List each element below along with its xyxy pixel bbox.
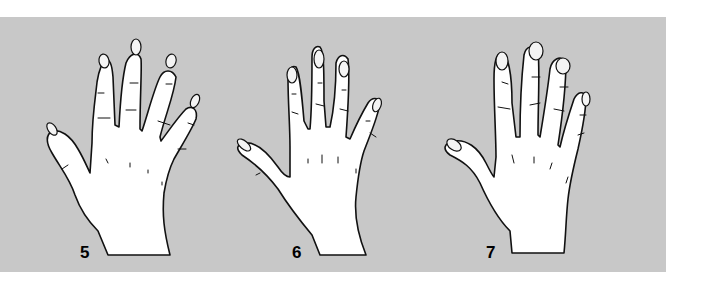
hand-7-illustration <box>440 17 666 272</box>
hand-figure-5: 5 <box>0 17 220 272</box>
hand-figure-7: 7 <box>440 17 666 272</box>
hand-figure-6: 6 <box>220 17 440 272</box>
figure-label-5: 5 <box>80 243 89 263</box>
hand-6-illustration <box>220 17 440 272</box>
hand-5-illustration <box>0 17 220 272</box>
figure-label-7: 7 <box>486 243 495 263</box>
illustration-panel: 5 6 7 <box>0 17 666 272</box>
figure-label-6: 6 <box>292 243 301 263</box>
